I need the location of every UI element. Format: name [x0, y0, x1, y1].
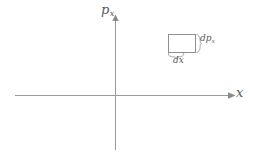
p-axis-label: px — [101, 3, 114, 18]
diagram-canvas — [0, 0, 257, 160]
phase-space-cell-rect — [169, 35, 196, 53]
dx-label: dx — [173, 56, 184, 65]
x-axis-label: x — [236, 86, 243, 99]
p-axis-label-subscript: x — [109, 9, 114, 18]
x-axis-arrowhead — [228, 92, 236, 99]
dp-label-base: dp — [200, 33, 212, 43]
x-axis-label-base: x — [236, 85, 243, 100]
phase-space-diagram: px x dpx dx — [0, 0, 257, 160]
dp-label-subscript: x — [212, 38, 215, 44]
dp-label: dpx — [200, 34, 215, 44]
dx-label-base: dx — [173, 55, 184, 65]
